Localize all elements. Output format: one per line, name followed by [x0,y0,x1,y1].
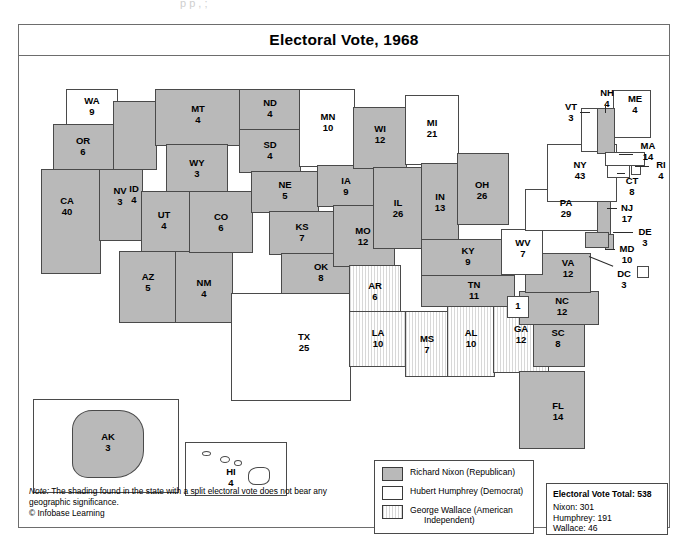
leader-line-MA [619,154,633,155]
state-HI-isle-2[interactable] [220,456,230,463]
note-text: The shading found in the state with a sp… [29,486,327,507]
electoral-vote-total-box: Electoral Vote Total: 538 Nixon: 301 Hum… [546,483,668,535]
state-ID[interactable] [113,101,157,170]
legend-label-nixon: Richard Nixon (Republican) [410,467,515,477]
state-HI[interactable] [248,467,270,485]
state-CA[interactable] [41,169,101,274]
state-MN[interactable] [299,89,355,167]
state-UT[interactable] [141,191,191,253]
note-lead: Note: [29,486,49,496]
state-label-HI: HI4 [216,467,246,488]
state-AK[interactable] [72,410,144,478]
legend-swatch-wallace [382,505,403,519]
state-IL[interactable] [373,167,423,249]
state-AL[interactable] [447,305,495,377]
state-MS[interactable] [405,311,449,377]
state-NH[interactable] [597,108,615,154]
state-HI-isle-3[interactable] [234,460,242,466]
page-title: Electoral Vote, 1968 [269,31,418,49]
legend-label-humphrey: Hubert Humphrey (Democrat) [410,486,523,496]
state-NV[interactable] [99,169,143,241]
state-KY[interactable] [421,239,505,277]
cropped-text-above: p p , ; [0,0,690,14]
state-ME[interactable] [613,90,651,138]
map-canvas: WA9 OR6 CA40 NV3 ID4 MT4 WY3 UT4 AZ5 NM4… [19,56,669,528]
leader-line-DC [589,256,613,267]
legend-item-wallace[interactable]: George Wallace (AmericanIndependent) [382,505,526,525]
state-MI[interactable] [405,95,459,165]
state-FL[interactable] [519,371,585,449]
state-WA[interactable] [66,89,118,126]
state-AR[interactable] [349,265,401,313]
state-TN[interactable] [421,275,515,307]
figure-title-bar: Electoral Vote, 1968 [19,25,669,56]
state-CT[interactable] [607,165,630,178]
state-label-NJ: NJ17 [615,203,639,224]
state-label-DC: DC3 [612,269,636,290]
state-KS[interactable] [269,211,335,255]
legend-swatch-humphrey [382,486,403,500]
state-HI-isle-1[interactable] [202,451,211,456]
state-VT[interactable] [581,108,598,152]
state-OH[interactable] [457,153,509,225]
state-WY[interactable] [166,144,228,193]
total-wallace: Wallace: 46 [553,523,661,533]
state-ND[interactable] [239,89,301,131]
leader-line-VT [580,112,590,113]
alaska-inset: AK3 [33,399,179,493]
legend-label-wallace-line2: Independent) [410,515,513,525]
leader-line-NH [605,104,606,113]
leader-line-NJ [607,208,617,209]
legend-swatch-nixon [382,467,403,481]
state-SD[interactable] [239,129,301,173]
legend-item-nixon[interactable]: Richard Nixon (Republican) [382,467,526,481]
state-label-RI: RI4 [649,160,673,181]
legend-label-wallace-line1: George Wallace (American [410,505,513,515]
legend: Richard Nixon (Republican) Hubert Humphr… [374,460,534,534]
state-MT[interactable] [155,89,241,146]
leader-line-MD [605,249,615,250]
state-AZ[interactable] [119,251,177,323]
state-OR[interactable] [53,124,115,171]
state-IA[interactable] [317,165,375,207]
leader-line-CT [617,173,625,174]
legend-item-humphrey[interactable]: Hubert Humphrey (Democrat) [382,486,526,500]
state-NC[interactable] [519,291,599,325]
state-label-DE: DE3 [633,227,657,248]
state-WI[interactable] [353,107,407,169]
state-label-CT: CT8 [620,176,644,197]
leader-line-RI [635,166,649,167]
map-figure-frame: Electoral Vote, 1968 [18,24,670,528]
copyright: © Infobase Learning [29,508,329,519]
map-note: Note: The shading found in the state wit… [29,486,329,519]
state-IN[interactable] [421,163,459,241]
state-label-MD: MD10 [615,244,639,265]
state-MD[interactable] [585,232,609,248]
total-header: Electoral Vote Total: 538 [553,489,661,499]
total-nixon: Nixon: 301 [553,502,661,512]
state-CO[interactable] [189,191,253,253]
state-NE[interactable] [251,171,319,213]
state-TX[interactable] [231,293,351,401]
state-DC-swatch[interactable] [637,266,649,278]
state-NM[interactable] [175,251,233,323]
total-humphrey: Humphrey: 191 [553,513,661,523]
legend-label-wallace: George Wallace (AmericanIndependent) [410,505,513,525]
leader-line-DE [613,232,633,233]
state-LA[interactable] [349,311,407,367]
state-NC-split-elector[interactable] [507,296,529,318]
state-SC[interactable] [533,321,585,367]
state-WV[interactable] [501,229,543,275]
